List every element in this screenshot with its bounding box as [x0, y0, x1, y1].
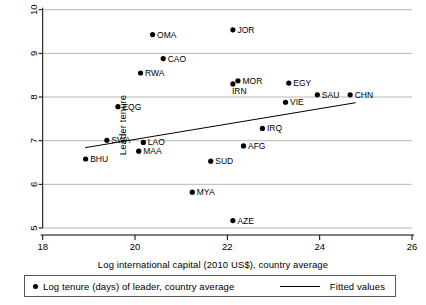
x-tick-label: 20 — [130, 241, 141, 250]
x-tick-label: 22 — [222, 241, 233, 250]
scatter-chart: Leader tenure 56789101820222426OMACAORWA… — [0, 0, 426, 305]
data-point — [241, 143, 246, 148]
y-tick-label: 9 — [28, 51, 39, 56]
y-tick-label: 7 — [28, 138, 39, 143]
legend-item-fitted: Fitted values — [280, 281, 385, 292]
y-tick-label: 8 — [28, 94, 39, 99]
data-point — [138, 70, 143, 75]
y-tick-label: 6 — [28, 182, 39, 187]
data-point-label: OMA — [157, 30, 177, 40]
data-point — [141, 140, 146, 145]
y-tick-label: 5 — [28, 225, 39, 230]
data-point — [230, 218, 235, 223]
data-point — [83, 156, 88, 161]
y-tick-label: 10 — [28, 4, 39, 15]
x-axis-title: Log international capital (2010 US$), co… — [0, 259, 426, 270]
data-point-label: IRN — [232, 86, 247, 96]
data-point — [286, 80, 291, 85]
data-point — [283, 100, 288, 105]
legend-marker-icon — [33, 284, 38, 289]
data-point-label: JOR — [237, 25, 254, 35]
data-point — [190, 190, 195, 195]
data-point-label: AFG — [248, 141, 265, 151]
data-point-label: EGY — [293, 78, 311, 88]
data-point — [150, 32, 155, 37]
legend-label-fitted: Fitted values — [330, 281, 385, 292]
data-point-label: IRQ — [267, 123, 283, 133]
data-point-label: MAA — [143, 146, 162, 156]
data-point-label: VIE — [290, 97, 304, 107]
data-point — [348, 92, 353, 97]
data-point-label: CHN — [355, 90, 373, 100]
x-tick-label: 24 — [314, 241, 325, 250]
chart-legend: Log tenure (days) of leader, country ave… — [24, 275, 396, 297]
x-tick-label: 18 — [37, 241, 48, 250]
data-point — [260, 126, 265, 131]
data-point-label: AZE — [237, 216, 254, 226]
data-point-label: SAU — [322, 90, 339, 100]
data-point-label: MYA — [197, 187, 215, 197]
x-tick-label: 26 — [407, 241, 418, 250]
data-point — [136, 149, 141, 154]
data-point — [230, 27, 235, 32]
data-point-label: MOR — [242, 76, 262, 86]
data-point — [104, 138, 109, 143]
data-point — [315, 92, 320, 97]
legend-item-points: Log tenure (days) of leader, country ave… — [33, 281, 234, 292]
legend-label-points: Log tenure (days) of leader, country ave… — [43, 281, 234, 292]
plot-area: 56789101820222426OMACAORWAEQGSWABHULAOMA… — [0, 0, 426, 250]
data-point — [208, 159, 213, 164]
legend-line-icon — [280, 286, 320, 287]
data-point-label: BHU — [90, 154, 108, 164]
data-point-label: RWA — [145, 68, 165, 78]
data-point-label: CAO — [168, 54, 187, 64]
data-point — [235, 78, 240, 83]
data-point — [161, 56, 166, 61]
data-point-label: SUD — [215, 156, 233, 166]
